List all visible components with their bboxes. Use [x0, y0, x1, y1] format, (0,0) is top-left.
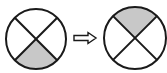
right-circle [104, 7, 166, 69]
diagram-canvas [0, 0, 167, 73]
left-circle [6, 9, 66, 69]
right-arrow-icon [74, 33, 96, 44]
